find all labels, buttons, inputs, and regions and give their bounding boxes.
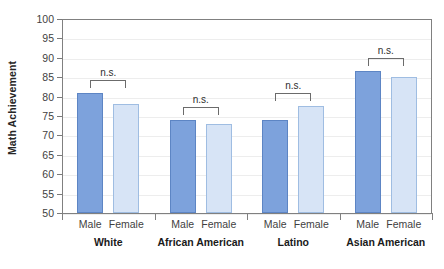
bar-latino-male [262,120,288,213]
group-separator-tick [340,213,341,220]
x-axis-group-label-white: White [56,237,161,248]
significance-label: n.s. [163,95,239,105]
significance-bracket [183,107,219,115]
bar-african-american-male [170,120,196,213]
x-axis-end-tick-left [62,213,63,220]
y-axis-tick-label: 55 [30,189,54,200]
y-axis-title: Math Achievement [2,0,22,215]
y-axis-tick-label: 90 [30,53,54,64]
bar-latino-female [298,106,324,213]
bar-african-american-female [206,124,232,213]
y-axis-tick [57,135,62,136]
y-axis-tick-label: 60 [30,169,54,180]
y-axis-tick-label: 100 [30,14,54,25]
y-axis-tick [57,77,62,78]
significance-label: n.s. [70,68,146,78]
bar-asian-american-male [355,71,381,213]
y-axis-line [62,19,63,214]
gridline [62,39,431,40]
x-axis-sublabel-female: Female [383,219,425,230]
y-axis-tick [57,174,62,175]
y-axis-tick [57,97,62,98]
y-axis-tick [57,116,62,117]
significance-label: n.s. [255,81,331,91]
math-achievement-bar-chart: Math Achievement 50556065707580859095100… [0,0,444,269]
y-axis-tick [57,155,62,156]
x-axis-group-label-african-american: African American [149,237,254,248]
significance-bracket [275,93,311,101]
bar-white-female [113,104,139,213]
x-axis-sublabel-female: Female [105,219,147,230]
y-axis-tick [57,194,62,195]
y-axis-tick-label: 85 [30,72,54,83]
bar-white-male [77,93,103,213]
significance-bracket [368,58,404,66]
significance-bracket [90,80,126,88]
significance-label: n.s. [348,46,424,56]
y-axis-tick-label: 80 [30,92,54,103]
y-axis-title-text: Math Achievement [6,61,18,155]
y-axis-tick-label: 70 [30,130,54,141]
x-axis-group-label-asian-american: Asian American [334,237,439,248]
y-axis-tick-label: 65 [30,150,54,161]
x-axis-sublabel-female: Female [290,219,332,230]
bar-asian-american-female [391,77,417,213]
x-axis-end-tick-right [432,213,433,220]
x-axis-group-label-latino: Latino [241,237,346,248]
group-separator-tick [155,213,156,220]
x-axis-sublabel-female: Female [198,219,240,230]
y-axis-tick-label: 75 [30,111,54,122]
y-axis-tick [57,38,62,39]
y-axis-tick-label: 95 [30,33,54,44]
y-axis-tick [57,58,62,59]
group-separator-tick [247,213,248,220]
y-axis-tick-label: 50 [30,208,54,219]
y-axis-tick [57,19,62,20]
